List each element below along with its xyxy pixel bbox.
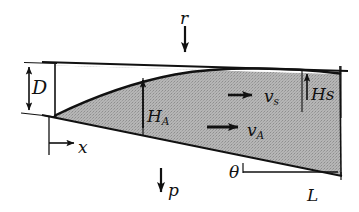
label-surface-velocity-subscript: s (274, 95, 279, 107)
figure-canvas: D Hs HA vs vA r p x L θ (0, 0, 359, 212)
label-aquifer-head-base: H (147, 106, 162, 126)
label-slope-angle: θ (229, 164, 239, 181)
label-distance-axis: x (78, 139, 88, 156)
label-surface-velocity-base: v (264, 86, 274, 106)
hillslope-diagram (0, 0, 359, 212)
label-aquifer-velocity-subscript: A (257, 129, 265, 141)
label-aquifer-velocity: vA (247, 122, 264, 140)
label-percolation: p (168, 182, 179, 199)
label-recharge: r (180, 10, 188, 27)
depth-bracket-bottom-tick (21, 113, 57, 117)
label-depth: D (32, 78, 47, 97)
label-length: L (307, 187, 318, 204)
label-surface-velocity: vs (264, 88, 279, 106)
label-surface-thickness: Hs (311, 86, 335, 103)
label-aquifer-velocity-base: v (247, 120, 257, 140)
label-aquifer-head: HA (147, 108, 169, 126)
label-aquifer-head-subscript: A (162, 115, 170, 127)
